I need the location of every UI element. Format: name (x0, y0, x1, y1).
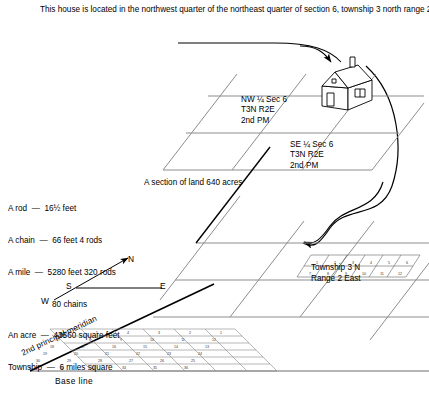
township-section-number: 4 (370, 261, 372, 265)
survey-section-number: 25 (191, 359, 195, 363)
survey-section-number: 36 (184, 366, 188, 370)
township-section-number: 6 (406, 261, 408, 265)
survey-section-number: 11 (181, 338, 185, 342)
compass-label-east: E (160, 281, 166, 291)
label-township-range: Township 3 N Range 2 East (311, 263, 361, 284)
measure-mile-chains: 80 chains (8, 300, 120, 311)
survey-section-number: 12 (212, 338, 216, 342)
survey-section-number: 9 (120, 338, 122, 342)
survey-section-number: 26 (160, 359, 164, 363)
township-section-number: 12 (398, 272, 402, 276)
survey-section-number: 10 (150, 338, 154, 342)
survey-section-number: 13 (205, 345, 209, 349)
survey-section-number: 27 (129, 359, 133, 363)
survey-section-number: 15 (143, 345, 147, 349)
township-section-number: 5 (388, 261, 390, 265)
township-grid: 172839410511612 (153, 147, 429, 340)
measure-rod: A rod — 16½ feet (8, 204, 120, 215)
measure-township: Township — 6 miles square (8, 363, 120, 374)
label-se-quarter: SE ¼ Sec 6 T3N R2E 2nd PM (290, 140, 333, 171)
survey-section-number: 3 (158, 331, 160, 335)
figure-canvas: 172839410511612 654321789101112181716151… (0, 0, 429, 394)
compass-label-south: S (66, 281, 72, 291)
compass-label-west: W (41, 296, 49, 306)
house-illustration (322, 57, 372, 110)
survey-section-number: 2 (189, 331, 191, 335)
leader-line-to-house (178, 43, 341, 62)
measurements-list: A rod — 16½ feet A chain — 66 feet 4 rod… (8, 183, 120, 394)
measure-chain: A chain — 66 feet 4 rods (8, 236, 120, 247)
survey-section-number: 23 (167, 352, 171, 356)
township-section-number: 11 (380, 272, 384, 276)
survey-section-number: 1 (220, 331, 222, 335)
compass-label-north: N (128, 254, 134, 264)
township-section-number: 10 (362, 272, 366, 276)
survey-section-number: 14 (174, 345, 178, 349)
label-base-line: Base line (55, 376, 93, 386)
survey-section-number: 34 (122, 366, 126, 370)
measure-mile: A mile — 5280 feet 320 rods (8, 268, 120, 279)
label-section-caption: A section of land 640 acres (144, 178, 242, 187)
survey-section-number: 24 (198, 352, 202, 356)
survey-section-number: 35 (153, 366, 157, 370)
label-nw-quarter: NW ¼ Sec 6 T3N R2E 2nd PM (241, 95, 287, 126)
survey-section-number: 22 (136, 352, 140, 356)
survey-section-number: 4 (127, 331, 129, 335)
description-paragraph: This house is located in the northwest q… (27, 5, 175, 15)
